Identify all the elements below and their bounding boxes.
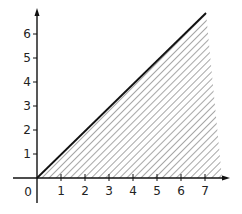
x-tick-label: 3 <box>105 184 113 198</box>
x-tick-label: 1 <box>57 184 65 198</box>
x-axis-arrow-icon <box>222 176 230 181</box>
y-tick-label: 3 <box>23 99 31 113</box>
y-tick-label: 1 <box>23 147 31 161</box>
hatched-region <box>37 13 222 178</box>
y-tick-label: 5 <box>23 51 31 65</box>
y-tick-label: 4 <box>23 75 31 89</box>
x-tick-label: 4 <box>129 184 137 198</box>
y-tick-label: 6 <box>23 27 31 41</box>
x-tick-label: 6 <box>177 184 185 198</box>
x-tick-label: 2 <box>81 184 89 198</box>
y-ticks: 123456 <box>23 27 37 161</box>
x-tick-label: 5 <box>153 184 161 198</box>
x-tick-label: 7 <box>201 184 209 198</box>
y-axis-arrow-icon <box>35 8 40 16</box>
y-tick-label: 2 <box>23 123 31 137</box>
chart: 1234567 123456 0 <box>0 0 242 214</box>
origin-label: 0 <box>24 185 32 199</box>
